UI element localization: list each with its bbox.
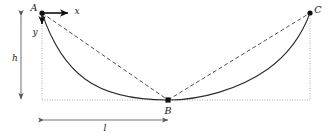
- x-axis-label: x: [74, 6, 79, 16]
- figure-canvas: A B C x y h l: [0, 0, 330, 136]
- chord-b-c: [168, 13, 310, 100]
- point-marker-a: [39, 10, 44, 15]
- brachistochrone-curve: [42, 13, 310, 100]
- length-dimension-label: l: [104, 123, 107, 133]
- height-dimension-label: h: [12, 53, 18, 63]
- chord-a-b: [42, 13, 168, 100]
- point-marker-b: [165, 97, 170, 102]
- guide-lines: [42, 18, 310, 100]
- point-label-b: B: [164, 105, 172, 116]
- chord-lines: [42, 13, 310, 100]
- brachistochrone-figure: A B C x y h l: [0, 0, 330, 136]
- point-markers: [39, 10, 312, 102]
- point-label-c: C: [314, 4, 322, 15]
- point-label-a: A: [30, 2, 38, 13]
- point-marker-c: [307, 10, 312, 15]
- y-axis-label: y: [31, 27, 38, 37]
